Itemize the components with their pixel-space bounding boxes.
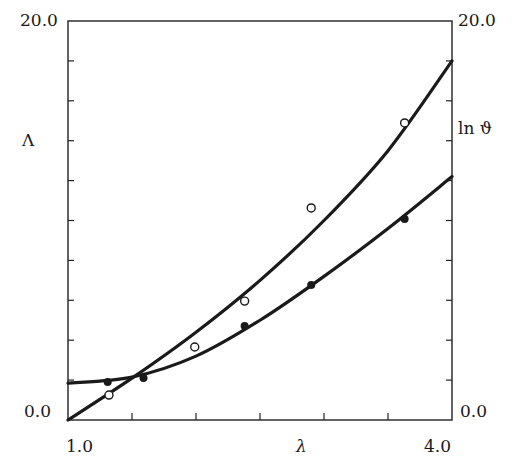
plot-frame <box>68 21 452 420</box>
open-circle-marker <box>105 391 113 399</box>
x-right-tick-label: 4.0 <box>424 436 451 456</box>
plot-border <box>68 21 452 420</box>
x-left-tick-label: 1.0 <box>66 436 93 456</box>
y-left-bottom-tick-label: 0.0 <box>24 401 51 421</box>
axis-ticks <box>68 61 452 420</box>
open-circle-marker <box>191 343 199 351</box>
filled-circle-marker <box>104 378 112 386</box>
y-left-top-tick-label: 20.0 <box>20 10 58 30</box>
x-axis-label: λ <box>296 436 307 456</box>
y-right-top-tick-label: 20.0 <box>458 10 496 30</box>
fit-curves <box>68 61 452 420</box>
filled-circle-marker <box>140 374 148 382</box>
ln-theta-fit-curve <box>68 61 452 420</box>
chart-canvas <box>0 0 517 476</box>
filled-circle-marker <box>241 322 249 330</box>
filled-circle-marker <box>401 215 409 223</box>
filled-circle-marker <box>307 281 315 289</box>
data-points <box>104 119 409 399</box>
y-left-axis-label: Λ <box>22 130 34 150</box>
open-circle-marker <box>401 119 409 127</box>
open-circle-marker <box>241 297 249 305</box>
y-right-axis-label: ln ϑ <box>458 118 492 138</box>
y-right-bottom-tick-label: 0.0 <box>460 401 487 421</box>
open-circle-marker <box>307 204 315 212</box>
